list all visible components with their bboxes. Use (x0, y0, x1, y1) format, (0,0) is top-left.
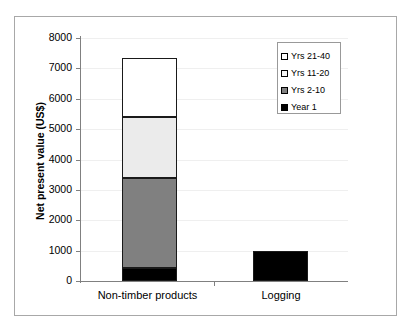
y-tick-mark-8000 (76, 38, 81, 39)
legend-label-yrs-11-20: Yrs 11-20 (291, 69, 329, 78)
bar-segment-year-1[interactable] (122, 268, 177, 281)
y-tick-label-3000: 3000 (12, 184, 72, 195)
x-category-label-logging: Logging (214, 289, 348, 301)
y-tick-mark-1000 (76, 251, 81, 252)
bar-segment-yrs-21-40[interactable] (122, 58, 177, 117)
legend-swatch-icon-yrs-2-10 (281, 87, 288, 94)
y-tick-mark-0 (76, 281, 81, 282)
y-tick-label-8000: 8000 (12, 32, 72, 43)
y-tick-mark-5000 (76, 129, 81, 130)
legend-label-yrs-2-10: Yrs 2-10 (291, 86, 325, 95)
bar-segment-logging-year-1[interactable] (253, 251, 308, 281)
x-category-label-non-timber-products: Non-timber products (81, 289, 214, 301)
bar-segment-yrs-11-20[interactable] (122, 117, 177, 178)
x-tick-mark-category-separator (214, 281, 215, 286)
y-tick-mark-6000 (76, 99, 81, 100)
y-tick-mark-7000 (76, 68, 81, 69)
y-tick-label-5000: 5000 (12, 123, 72, 134)
y-tick-label-4000: 4000 (12, 154, 72, 165)
y-tick-label-2000: 2000 (12, 214, 72, 225)
legend-swatch-icon-yrs-21-40 (281, 53, 288, 60)
legend-item-yrs-21-40[interactable]: Yrs 21-40 (281, 48, 340, 64)
y-tick-label-6000: 6000 (12, 93, 72, 104)
y-tick-mark-2000 (76, 220, 81, 221)
chart-figure: Net present value (US$) (0, 0, 417, 332)
legend-swatch-icon-yrs-11-20 (281, 70, 288, 77)
legend-item-yrs-11-20[interactable]: Yrs 11-20 (281, 65, 340, 81)
legend-swatch-icon-year-1 (281, 104, 288, 111)
legend-label-year-1: Year 1 (291, 103, 317, 112)
bar-non-timber-products[interactable] (122, 38, 177, 281)
legend-label-yrs-21-40: Yrs 21-40 (291, 52, 330, 61)
legend-item-year-1[interactable]: Year 1 (281, 99, 340, 115)
y-tick-mark-4000 (76, 160, 81, 161)
y-tick-label-7000: 7000 (12, 62, 72, 73)
y-tick-label-1000: 1000 (12, 245, 72, 256)
bar-segment-yrs-2-10[interactable] (122, 178, 177, 268)
legend-item-yrs-2-10[interactable]: Yrs 2-10 (281, 82, 340, 98)
y-tick-label-0: 0 (12, 275, 72, 286)
legend: Yrs 21-40 Yrs 11-20 Yrs 2-10 Year 1 (277, 42, 341, 114)
y-tick-mark-3000 (76, 190, 81, 191)
